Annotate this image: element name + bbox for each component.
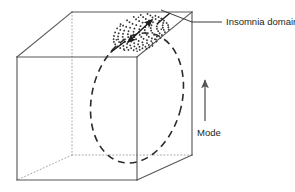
cube-hidden-edges — [17, 12, 192, 180]
mode-label: Mode — [197, 127, 221, 138]
insomnia-domain-figure: Insomnia domain Mode — [0, 0, 295, 192]
insomnia-domain-extent-arrow — [128, 20, 153, 43]
insomnia-domain-stipple-patch — [107, 5, 175, 60]
cube-visible-edges — [17, 12, 192, 180]
cube-edge-top-left-diagonal — [17, 12, 72, 57]
insomnia-domain-label: Insomnia domain — [226, 16, 295, 27]
cube-hidden-edge-bottom-left-diagonal — [17, 155, 72, 180]
figure-canvas: Insomnia domain Mode — [0, 0, 295, 192]
